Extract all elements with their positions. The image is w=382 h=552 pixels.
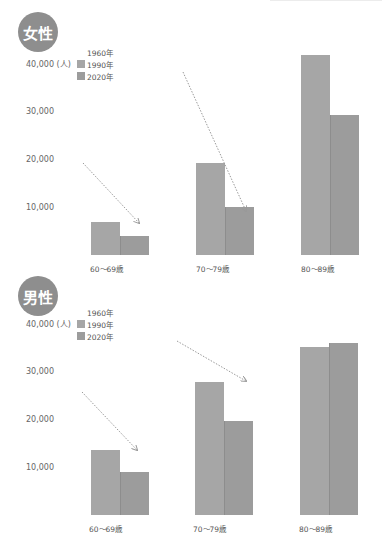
female-arrow-70-79: [183, 72, 246, 211]
arrow-icon: [82, 72, 246, 450]
female-arrow-60-69: [83, 163, 139, 223]
male-arrow-60-69: [82, 392, 137, 450]
trend-arrows: [0, 0, 382, 552]
male-arrow-70-79: [177, 341, 246, 381]
